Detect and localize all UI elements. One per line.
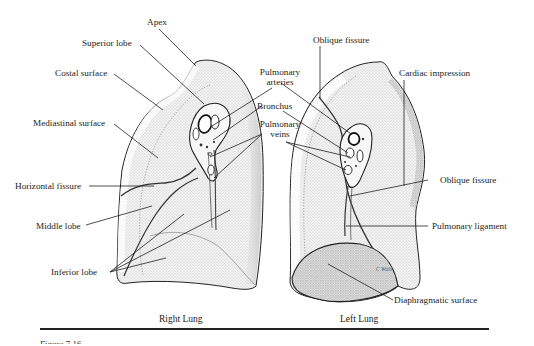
label-horizontal-fissure: Horizontal fissure — [15, 181, 81, 191]
label-pulmonary-arteries-line2: arteries — [254, 77, 306, 87]
label-oblique-fissure-right: Oblique fissure — [440, 175, 496, 185]
label-costal-surface: Costal surface — [55, 68, 107, 78]
right-lung — [117, 60, 263, 289]
caption-left-lung: Left Lung — [340, 314, 378, 324]
label-pulmonary-ligament: Pulmonary ligament — [432, 221, 507, 231]
caption-right-lung: Right Lung — [159, 314, 203, 324]
label-diaphragmatic-surface: Diaphragmatic surface — [394, 295, 477, 305]
label-apex: Apex — [147, 17, 167, 27]
label-bronchus: Bronchus — [257, 101, 292, 111]
label-pulmonary-veins: Pulmonary veins — [254, 119, 306, 139]
label-mediastinal-surface: Mediastinal surface — [33, 118, 105, 128]
label-inferior-lobe: Inferior lobe — [51, 267, 97, 277]
label-pulmonary-veins-line1: Pulmonary — [254, 119, 306, 129]
label-cardiac-impression: Cardiac impression — [399, 68, 470, 78]
label-pulmonary-arteries: Pulmonary arteries — [254, 67, 306, 87]
label-pulmonary-veins-line2: veins — [254, 129, 306, 139]
artist-signature: C Wuhl — [376, 264, 392, 274]
label-oblique-fissure-top: Oblique fissure — [313, 35, 369, 45]
label-middle-lobe: Middle lobe — [36, 221, 81, 231]
label-superior-lobe: Superior lobe — [82, 38, 132, 48]
left-lung — [290, 62, 425, 302]
figure-rule — [40, 328, 489, 330]
label-pulmonary-arteries-line1: Pulmonary — [254, 67, 306, 77]
